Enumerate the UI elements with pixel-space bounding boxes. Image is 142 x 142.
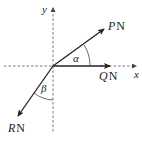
force-diagram: x y PN QN RN α β [0,0,142,142]
angle-alpha-label: α [73,52,79,64]
force-q-unit: N [109,69,118,83]
svg-text:RN: RN [7,121,25,135]
force-p-unit: N [116,19,125,33]
force-q-symbol: Q [99,69,108,83]
force-q-label: QN [99,69,118,83]
force-r-label: RN [7,121,25,135]
angle-beta-label: β [40,82,47,94]
angle-alpha-arc [84,45,90,66]
force-p-label: PN [107,19,125,33]
force-r-unit: N [16,121,25,135]
force-r-vector [18,66,53,116]
x-axis-label: x [133,68,139,80]
y-axis-label: y [41,3,47,15]
force-r-symbol: R [7,121,16,135]
force-p-symbol: P [107,19,116,33]
svg-text:QN: QN [99,69,118,83]
angle-beta-arc [34,93,53,100]
svg-text:PN: PN [107,19,125,33]
